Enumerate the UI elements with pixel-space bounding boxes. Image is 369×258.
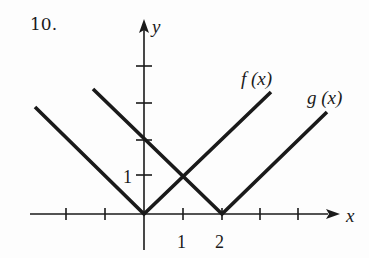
plot-area: x y 1 2 1 f (x) g (x) bbox=[0, 0, 369, 258]
f-of-x-label: f (x) bbox=[241, 68, 272, 90]
x-axis-arrow-icon bbox=[326, 209, 340, 219]
x-tick-label-2: 2 bbox=[215, 232, 224, 252]
g-of-x-label: g (x) bbox=[307, 87, 342, 109]
f-of-x-line bbox=[35, 92, 271, 214]
x-axis bbox=[30, 208, 340, 220]
x-axis-label: x bbox=[345, 205, 355, 226]
graph-figure: 10. x y 1 bbox=[0, 0, 369, 258]
y-tick-label-1: 1 bbox=[123, 167, 132, 187]
y-axis-label: y bbox=[150, 16, 161, 37]
x-tick-label-1: 1 bbox=[177, 232, 186, 252]
